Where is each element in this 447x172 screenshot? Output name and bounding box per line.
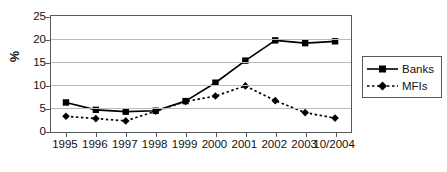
x-tick-label: 2000 <box>202 138 228 151</box>
y-tick-label: 25 <box>20 11 46 22</box>
data-point-marker <box>301 109 309 117</box>
x-tick-label: 2001 <box>232 138 258 151</box>
x-tick-label: 1995 <box>52 138 78 151</box>
y-tick-label: 20 <box>20 34 46 45</box>
data-point-marker <box>63 99 69 105</box>
series-banks <box>63 37 339 115</box>
data-point-marker <box>92 115 100 123</box>
data-point-marker <box>331 114 339 122</box>
gridline <box>51 39 351 40</box>
x-tick-label: 1998 <box>142 138 168 151</box>
series-layer <box>51 16 350 131</box>
y-tick-label: 15 <box>20 57 46 68</box>
x-tick-label: 1997 <box>112 138 138 151</box>
data-point-marker <box>212 92 220 100</box>
x-tick-mark <box>186 133 187 137</box>
legend-item-banks: Banks <box>366 60 437 77</box>
y-tick-label: 5 <box>20 103 46 114</box>
x-tick-mark <box>246 133 247 137</box>
x-tick-mark <box>336 133 337 137</box>
x-tick-label: 1996 <box>82 138 108 151</box>
series-mfis <box>62 82 339 125</box>
y-tick-label: 10 <box>20 80 46 91</box>
x-axis-labels: 19951996199719981999200020012002200310/2… <box>50 138 352 158</box>
x-tick-label: 10/2004 <box>313 138 355 151</box>
legend-label-mfis: MFIs <box>402 80 428 92</box>
data-point-marker <box>62 112 70 120</box>
gridline <box>51 85 351 86</box>
x-tick-mark <box>306 133 307 137</box>
data-point-marker <box>302 40 308 46</box>
x-tick-mark <box>66 133 67 137</box>
data-point-marker <box>271 97 279 105</box>
gridline <box>51 62 351 63</box>
legend-item-mfis: MFIs <box>366 77 437 94</box>
data-point-marker <box>122 117 130 125</box>
x-tick-label: 1999 <box>172 138 198 151</box>
line-chart: % 0510152025 199519961997199819992000200… <box>0 0 447 172</box>
y-tick-label: 0 <box>20 126 46 137</box>
legend-label-banks: Banks <box>402 63 434 75</box>
chart-legend: Banks MFIs <box>362 56 442 98</box>
legend-swatch-banks <box>366 63 399 75</box>
x-tick-mark <box>96 133 97 137</box>
x-tick-mark <box>276 133 277 137</box>
x-tick-mark <box>156 133 157 137</box>
x-tick-label: 2002 <box>261 138 287 151</box>
plot-area <box>50 15 352 133</box>
x-tick-mark <box>126 133 127 137</box>
series-line <box>66 40 335 111</box>
x-tick-mark <box>216 133 217 137</box>
legend-swatch-mfis <box>366 80 399 92</box>
gridline <box>51 108 351 109</box>
data-point-marker <box>123 108 129 114</box>
